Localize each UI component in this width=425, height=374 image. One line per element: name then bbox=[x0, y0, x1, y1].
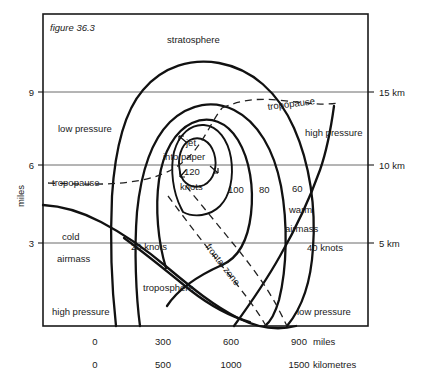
x-tick-label-miles-0: 0 bbox=[92, 336, 97, 347]
y-axis-title-miles: miles bbox=[15, 185, 26, 207]
label-stratosphere: stratosphere bbox=[167, 34, 220, 45]
y-tick-label-9: 9 bbox=[29, 87, 34, 98]
isotach-label-20: 20 knots bbox=[131, 241, 167, 252]
x-tick-label-miles-900: 900 bbox=[291, 336, 307, 347]
isotach-label-80: 80 bbox=[259, 184, 270, 195]
label-high-pressure-right: high pressure bbox=[305, 127, 363, 138]
isotach-label-40: 40 knots bbox=[307, 242, 343, 253]
frontal-zone-upper-dashed bbox=[186, 186, 287, 326]
label-low-pressure-bottom-right: low pressure bbox=[297, 306, 351, 317]
cross-section-diagram: figure 36.3 stratosphere low pressure tr… bbox=[0, 0, 425, 374]
y-tick-label-5km: 5 km bbox=[379, 238, 400, 249]
label-warm-airmass: airmass bbox=[285, 223, 319, 234]
y-tick-label-3: 3 bbox=[29, 238, 34, 249]
label-frontal-zone: frontal zone bbox=[203, 241, 242, 287]
y-tick-label-10km: 10 km bbox=[379, 160, 405, 171]
x-tick-label-miles-300: 300 bbox=[155, 336, 171, 347]
jet-core-label-line2: into paper bbox=[163, 151, 205, 162]
figure-caption: figure 36.3 bbox=[50, 22, 96, 33]
label-cold-airmass: airmass bbox=[57, 253, 91, 264]
x-tick-label-km-500: 500 bbox=[155, 359, 171, 370]
x-tick-label-km-1500: 1500 bbox=[288, 359, 309, 370]
label-tropopause-right: tropopause bbox=[267, 95, 316, 112]
label-troposphere: troposphere bbox=[143, 282, 194, 293]
figure-container: figure 36.3 stratosphere low pressure tr… bbox=[0, 0, 425, 374]
isotach-label-100: 100 bbox=[228, 184, 244, 195]
x-axis-unit-miles: miles bbox=[313, 336, 335, 347]
x-tick-label-km-1000: 1000 bbox=[220, 359, 241, 370]
jet-core-label-line3: 120 bbox=[184, 166, 200, 177]
label-low-pressure-top-left: low pressure bbox=[58, 123, 112, 134]
label-high-pressure-bottom-left: high pressure bbox=[52, 306, 110, 317]
x-tick-label-km-0: 0 bbox=[92, 359, 97, 370]
isotach-120-jet-core-contour bbox=[179, 138, 216, 187]
isotach-label-60: 60 bbox=[292, 183, 303, 194]
y-tick-label-6: 6 bbox=[29, 160, 34, 171]
label-tropopause-left: tropopause bbox=[52, 177, 100, 188]
label-warm: warm bbox=[288, 204, 312, 215]
jet-core-label-line4: knots bbox=[180, 181, 203, 192]
label-cold: cold bbox=[62, 231, 79, 242]
x-axis-unit-kilometres: kilometres bbox=[313, 359, 357, 370]
x-tick-label-miles-600: 600 bbox=[223, 336, 239, 347]
jet-core-label-line1: jet bbox=[185, 137, 196, 148]
y-tick-label-15km: 15 km bbox=[379, 87, 405, 98]
